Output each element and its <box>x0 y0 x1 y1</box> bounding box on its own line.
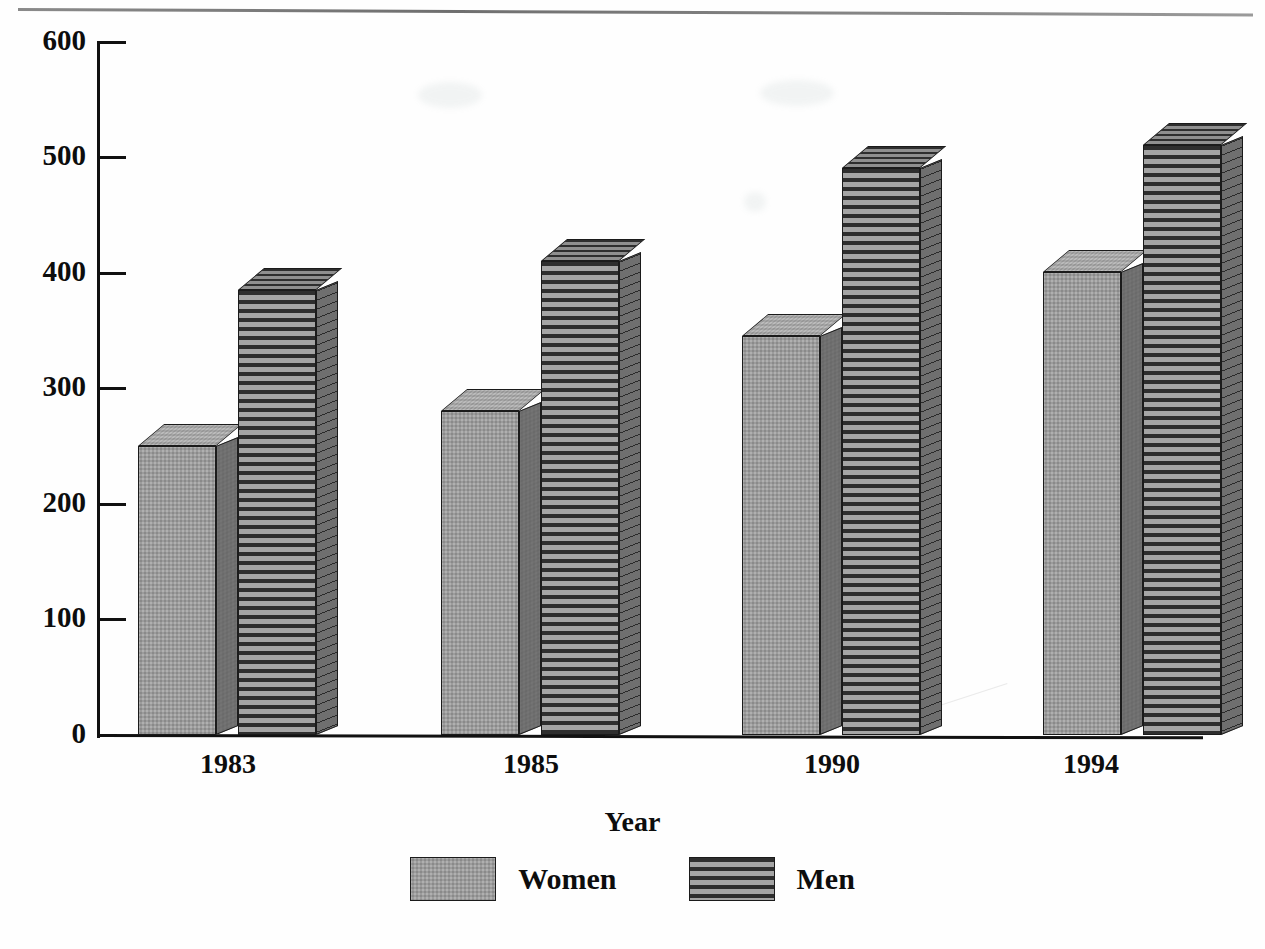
y-tick-label-500: 500 <box>10 139 86 172</box>
bar-front-face <box>842 168 920 735</box>
bar-front-face <box>742 336 820 735</box>
y-tick-200 <box>100 503 126 506</box>
bar-front-face <box>138 446 216 735</box>
bar-1990-women <box>742 336 820 735</box>
bar-1994-men <box>1143 145 1221 735</box>
bar-1985-women <box>441 411 519 735</box>
bar-1990-men <box>842 168 920 735</box>
x-tick-label-1983: 1983 <box>138 748 318 780</box>
y-tick-label-600: 600 <box>10 24 86 57</box>
legend-item-men: Men <box>689 857 855 901</box>
chart-legend: Women Men <box>0 857 1265 901</box>
legend-label-men: Men <box>797 862 855 896</box>
bar-front-face <box>441 411 519 735</box>
y-tick-label-300: 300 <box>10 370 86 403</box>
legend-swatch-men-icon <box>689 857 775 901</box>
bar-front-face <box>1043 272 1121 735</box>
y-tick-100 <box>100 618 126 621</box>
bar-1994-women <box>1043 272 1121 735</box>
chart-page: 600 500 400 300 200 100 0 1983 1985 1990… <box>0 0 1265 949</box>
y-tick-label-100: 100 <box>10 601 86 634</box>
y-tick-label-200: 200 <box>10 486 86 519</box>
y-tick-600 <box>100 41 126 44</box>
bar-front-face <box>238 290 316 735</box>
legend-item-women: Women <box>410 857 616 901</box>
y-tick-label-0: 0 <box>10 717 86 750</box>
legend-label-women: Women <box>518 862 616 896</box>
scan-smudge <box>418 82 482 108</box>
bar-side-face <box>216 437 238 735</box>
bar-side-face <box>519 402 541 735</box>
bar-side-face <box>316 281 338 735</box>
bar-side-face <box>1121 263 1143 735</box>
scan-smudge <box>744 192 766 212</box>
scan-smudge <box>760 80 834 106</box>
bar-front-face <box>1143 145 1221 735</box>
y-tick-500 <box>100 156 126 159</box>
bar-side-face <box>920 159 942 735</box>
y-tick-label-400: 400 <box>10 255 86 288</box>
bar-side-face <box>1221 136 1243 735</box>
page-top-rule <box>18 8 1253 16</box>
x-axis-title: Year <box>0 806 1265 838</box>
bar-1983-women <box>138 446 216 735</box>
x-tick-label-1994: 1994 <box>1001 748 1181 780</box>
bar-front-face <box>541 261 619 735</box>
y-tick-300 <box>100 387 126 390</box>
bar-side-face <box>820 327 842 735</box>
x-tick-label-1990: 1990 <box>742 748 922 780</box>
y-tick-400 <box>100 272 126 275</box>
bar-1983-men <box>238 290 316 735</box>
bar-side-face <box>619 252 641 735</box>
legend-swatch-women-icon <box>410 857 496 901</box>
x-tick-label-1985: 1985 <box>441 748 621 780</box>
bar-1985-men <box>541 261 619 735</box>
